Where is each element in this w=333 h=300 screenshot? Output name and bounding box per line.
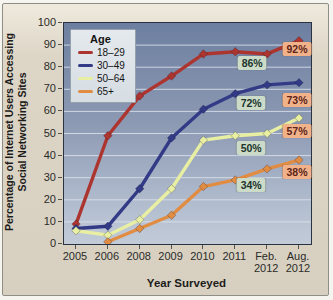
legend-entry: 65+: [78, 85, 130, 98]
y-tick-label: 90: [24, 38, 56, 51]
data-point-marker: [231, 48, 239, 56]
data-point-marker: [295, 156, 303, 164]
y-tick-label: 80: [24, 60, 56, 73]
y-tick-mark: [58, 243, 62, 244]
x-tick-label: Aug.2012: [275, 250, 321, 274]
legend: Age 18–2930–4950–6465+: [70, 29, 136, 103]
point-label: 73%: [282, 93, 311, 107]
y-tick-mark: [58, 22, 62, 23]
y-tick-label: 100: [24, 16, 56, 29]
y-tick-mark: [58, 177, 62, 178]
point-label: 72%: [237, 96, 266, 110]
y-tick-mark: [58, 44, 62, 45]
y-tick-label: 50: [24, 127, 56, 140]
point-label: 50%: [237, 141, 266, 155]
legend-swatch: [78, 51, 93, 54]
point-label: 57%: [282, 124, 311, 138]
point-label: 92%: [282, 42, 311, 56]
x-axis-title: Year Surveyed: [63, 277, 310, 289]
point-label: 34%: [237, 178, 266, 192]
legend-entry-label: 65+: [97, 86, 114, 97]
data-point-marker: [263, 165, 271, 173]
y-axis-title-line1: Percentage of Internet Users Accessing: [3, 16, 16, 248]
y-tick-mark: [58, 66, 62, 67]
x-tick-mark: [202, 245, 203, 249]
legend-entries: 18–2930–4950–6465+: [78, 46, 130, 98]
legend-swatch: [78, 77, 93, 80]
data-point-marker: [263, 81, 271, 89]
x-tick-mark: [107, 245, 108, 249]
x-tick-mark: [75, 245, 76, 249]
y-tick-mark: [58, 110, 62, 111]
y-tick-mark: [58, 133, 62, 134]
y-tick-label: 10: [24, 215, 56, 228]
legend-swatch: [78, 64, 93, 67]
y-tick-label: 30: [24, 171, 56, 184]
x-tick-mark: [234, 245, 235, 249]
y-tick-mark: [58, 155, 62, 156]
legend-entry-label: 18–29: [97, 47, 125, 58]
x-tick-mark: [171, 245, 172, 249]
data-point-marker: [104, 238, 112, 245]
point-label: 86%: [238, 56, 267, 70]
data-point-marker: [231, 132, 239, 140]
y-tick-label: 40: [24, 149, 56, 162]
y-tick-mark: [58, 221, 62, 222]
legend-entry: 50–64: [78, 72, 130, 85]
y-tick-label: 70: [24, 82, 56, 95]
y-tick-label: 20: [24, 193, 56, 206]
legend-title: Age: [90, 33, 130, 45]
x-tick-mark: [139, 245, 140, 249]
point-label: 38%: [282, 165, 311, 179]
legend-entry: 30–49: [78, 59, 130, 72]
y-tick-label: 0: [24, 237, 56, 250]
data-point-marker: [295, 78, 303, 86]
y-tick-mark: [58, 88, 62, 89]
x-tick-mark: [298, 245, 299, 249]
legend-entry-label: 30–49: [97, 60, 125, 71]
legend-entry: 18–29: [78, 46, 130, 59]
legend-swatch: [78, 90, 93, 93]
legend-entry-label: 50–64: [97, 73, 125, 84]
x-tick-mark: [266, 245, 267, 249]
y-tick-mark: [58, 199, 62, 200]
y-tick-label: 60: [24, 104, 56, 117]
